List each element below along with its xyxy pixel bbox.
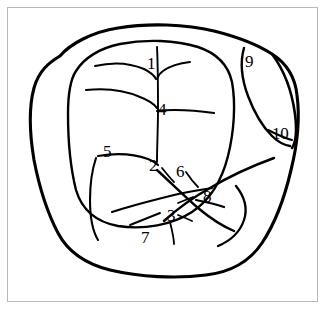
figure-page: 1 9 4 10 5 2 6 8 3 7 bbox=[0, 0, 326, 309]
figure-label-5: 5 bbox=[103, 143, 111, 160]
figure-label-3: 3 bbox=[167, 207, 175, 224]
line-drawing-canvas bbox=[0, 0, 326, 309]
figure-label-9: 9 bbox=[245, 53, 253, 70]
figure-label-8: 8 bbox=[203, 188, 211, 205]
region-5-border-path bbox=[90, 158, 98, 240]
figure-label-10: 10 bbox=[272, 125, 288, 142]
figure-label-4: 4 bbox=[158, 101, 166, 118]
tick-3c-path bbox=[170, 222, 174, 244]
vein-upper-right-path bbox=[157, 62, 190, 79]
crescent-outer-path bbox=[218, 186, 246, 246]
figure-label-6: 6 bbox=[176, 163, 184, 180]
figure-label-2: 2 bbox=[149, 157, 157, 174]
ridge-short-7-path bbox=[130, 213, 160, 225]
figure-label-7: 7 bbox=[141, 229, 149, 246]
figure-label-1: 1 bbox=[147, 55, 155, 72]
vein-mid-left-path bbox=[86, 89, 157, 108]
tick-6-path bbox=[186, 172, 198, 187]
